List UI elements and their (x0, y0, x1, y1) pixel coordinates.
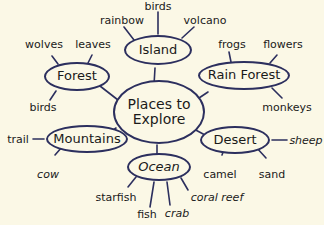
leaf-ocean-crab: crab (165, 207, 189, 220)
leaf-island-rainbow: rainbow (100, 14, 144, 27)
leaf-rainforest-frogs: frogs (218, 38, 246, 51)
leaf-ocean-coral-reef: coral reef (191, 191, 244, 204)
category-island: Island (124, 35, 192, 65)
leaf-ocean-fish: fish (137, 208, 157, 221)
category-mountains-label: Mountains (53, 132, 120, 146)
leaf-mountains-cow: cow (37, 168, 59, 181)
category-forest: Forest (44, 62, 110, 91)
leaf-desert-sheep: sheep (289, 134, 322, 147)
leaf-forest-leaves: leaves (75, 38, 111, 51)
leaf-island-volcano: volcano (184, 14, 227, 27)
leaf-mountains-trail: trail (7, 133, 29, 146)
category-forest-label: Forest (57, 69, 97, 83)
category-ocean-label: Ocean (138, 160, 180, 174)
category-island-label: Island (139, 43, 178, 57)
leaf-desert-sand: sand (259, 168, 285, 181)
center-label-line2: Explore (127, 112, 190, 127)
leaf-forest-birds: birds (29, 101, 56, 114)
leaf-island-birds: birds (144, 0, 171, 13)
leaf-forest-wolves: wolves (25, 38, 63, 51)
leaf-ocean-starfish: starfish (96, 191, 137, 204)
leaf-rainforest-flowers: flowers (263, 38, 303, 51)
leaf-desert-camel: camel (203, 168, 236, 181)
category-ocean: Ocean (127, 153, 191, 181)
center-label-line1: Places to (127, 97, 190, 112)
category-mountains: Mountains (46, 125, 128, 153)
center-node: Places to Explore (113, 80, 205, 144)
category-rain-forest: Rain Forest (198, 61, 290, 90)
category-rain-forest-label: Rain Forest (208, 68, 281, 82)
category-desert: Desert (200, 126, 270, 154)
leaf-rainforest-monkeys: monkeys (262, 101, 311, 114)
category-desert-label: Desert (213, 133, 256, 147)
